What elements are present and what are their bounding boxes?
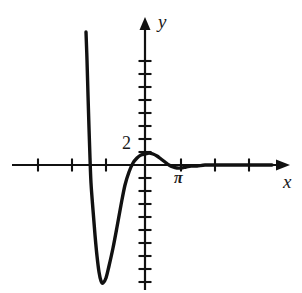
graph-figure: y x 2 π — [0, 0, 302, 293]
x-axis-arrowhead — [276, 160, 290, 171]
y-axis-label: y — [158, 12, 166, 31]
y-axis-arrowhead — [140, 17, 151, 30]
x-axis-label: x — [283, 172, 291, 191]
y-tick-label-2: 2 — [122, 134, 131, 152]
x-tick-label-pi: π — [174, 170, 183, 186]
plot-canvas — [0, 0, 302, 293]
function-curve — [86, 32, 272, 283]
